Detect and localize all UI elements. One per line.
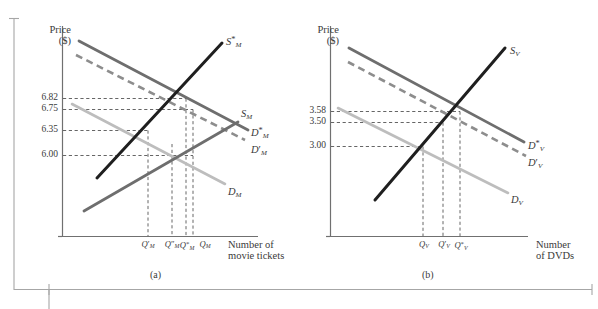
panel-b (326, 26, 528, 237)
panel-a-x-axis-title: Number of movie tickets (228, 239, 284, 262)
panel-b-y-axis-title-line2: ($) (300, 35, 339, 46)
panel-b-price-guides (331, 112, 460, 147)
panel-b-label-demand-prime: D′V (528, 157, 542, 170)
panel-b-caption: (b) (422, 270, 434, 281)
panel-b-curve-demand-prime (348, 62, 526, 156)
panel-a-tick-675: 6.75 (24, 103, 58, 113)
panel-a-y-axis-title-line1: Price (33, 24, 71, 35)
panel-a-curve-demand-prime (76, 55, 245, 140)
panel-a-qlabel-q-prime: Q′M (137, 240, 159, 250)
panel-b-label-supply: SV (510, 45, 520, 58)
panel-b-x-axis-title-line2: of DVDs (536, 250, 574, 261)
panel-a-quantity-guides (148, 99, 193, 237)
panel-b-y-axis-title-line1: Price (300, 24, 339, 35)
panel-a-y-axis-title: Price ($) (33, 24, 71, 47)
panel-a-caption: (a) (150, 270, 161, 281)
panel-b-qlabel-q-star: Q*V (450, 240, 472, 251)
panel-a-price-guides (63, 99, 193, 156)
panel-b-curve-supply (375, 48, 505, 200)
panel-b-qlabel-q: QV (413, 240, 435, 250)
panel-a-y-axis-title-line2: ($) (33, 35, 71, 46)
panel-a-tick-600: 6.00 (24, 149, 58, 159)
panel-b-x-axis-title: Number of DVDs (536, 239, 574, 262)
panel-b-quantity-guides (423, 112, 460, 237)
panel-b-y-axis-title: Price ($) (300, 24, 339, 47)
panel-a-qlabel-q: QM (194, 240, 216, 250)
panel-a-label-demand-star: D*M (251, 126, 269, 140)
outer-frame (9, 18, 592, 309)
panel-a-curve-demand-star (79, 41, 248, 130)
panel-a (58, 26, 258, 237)
panel-b-label-demand-star: D*V (528, 139, 544, 153)
panel-a-x-axis-title-line2: movie tickets (228, 250, 284, 261)
panel-a-tick-635: 6.35 (24, 124, 58, 134)
panel-a-x-axis-title-line1: Number of (228, 239, 284, 250)
panel-b-tick-358: 3.58 (292, 105, 326, 115)
figure-canvas (0, 0, 598, 309)
panel-b-tick-300: 3.00 (292, 140, 326, 150)
panel-a-curve-supply-star (97, 43, 222, 178)
panel-a-tick-682: 6.82 (24, 92, 58, 102)
panel-a-label-demand-prime: D′M (251, 144, 267, 157)
panel-a-label-supply: SM (241, 108, 252, 121)
panel-a-label-supply-star: S*M (226, 35, 241, 49)
panel-a-label-demand: DM (228, 186, 242, 199)
panel-b-x-axis-title-line1: Number (536, 239, 574, 250)
economics-figure: Price ($) 6.82 6.75 6.35 6.00 S*M SM D*M… (0, 0, 598, 309)
panel-b-tick-350: 3.50 (292, 116, 326, 126)
panel-a-axes (58, 26, 258, 237)
panel-b-label-demand: DV (511, 194, 523, 207)
